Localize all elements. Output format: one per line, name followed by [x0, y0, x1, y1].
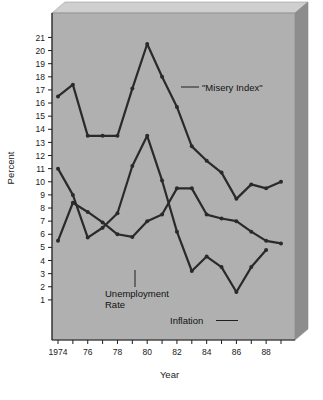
y-tick-label: 9 [40, 190, 45, 200]
y-axis-ticks: 123456789101112131415161718192021 [36, 33, 52, 305]
data-point [190, 269, 194, 273]
panel-right-bevel [295, 2, 308, 340]
data-point [220, 217, 224, 221]
y-tick-label: 2 [40, 282, 45, 292]
y-tick-label: 12 [36, 151, 46, 161]
x-tick-label: 86 [232, 347, 242, 357]
data-point [71, 193, 75, 197]
x-tick-label: 76 [83, 347, 93, 357]
data-point [130, 235, 134, 239]
data-point [220, 171, 224, 175]
y-tick-label: 17 [36, 85, 46, 95]
x-tick-label: 82 [172, 347, 182, 357]
data-point [56, 167, 60, 171]
data-point [279, 180, 283, 184]
plot-panel [52, 13, 295, 340]
y-tick-label: 1 [40, 295, 45, 305]
x-tick-label: 80 [142, 347, 152, 357]
y-tick-label: 5 [40, 242, 45, 252]
data-point [205, 213, 209, 217]
y-tick-label: 8 [40, 203, 45, 213]
y-tick-label: 7 [40, 216, 45, 226]
data-point [145, 219, 149, 223]
unemployment-rate-label-line2: Rate [105, 299, 125, 310]
data-point [101, 226, 105, 230]
data-point [145, 134, 149, 138]
data-point [101, 134, 105, 138]
data-point [279, 241, 283, 245]
misery-index-label: "Misery Index" [202, 82, 263, 93]
data-point [190, 144, 194, 148]
data-point [220, 265, 224, 269]
y-tick-label: 14 [36, 124, 46, 134]
y-tick-label: 3 [40, 269, 45, 279]
x-tick-label: 84 [202, 347, 212, 357]
data-point [160, 75, 164, 79]
data-point [86, 134, 90, 138]
x-tick-label: 1974 [49, 347, 68, 357]
inflation-label: Inflation [170, 315, 203, 326]
data-point [115, 134, 119, 138]
y-tick-label: 20 [36, 46, 46, 56]
data-point [130, 87, 134, 91]
y-tick-label: 19 [36, 59, 46, 69]
data-point [130, 164, 134, 168]
chart-figure: 1234567891011121314151617181920211974767… [0, 0, 323, 400]
data-point [264, 186, 268, 190]
y-tick-label: 15 [36, 111, 46, 121]
y-tick-label: 18 [36, 72, 46, 82]
panel-top-bevel [52, 2, 308, 13]
data-point [115, 211, 119, 215]
x-tick-label: 78 [113, 347, 123, 357]
unemployment-rate-label-line1: Unemployment [105, 288, 169, 299]
y-axis-title: Percent [5, 151, 16, 184]
data-point [175, 105, 179, 109]
y-tick-label: 16 [36, 98, 46, 108]
data-point [205, 159, 209, 163]
y-tick-label: 21 [36, 33, 46, 43]
data-point [175, 230, 179, 234]
data-point [115, 232, 119, 236]
data-point [145, 42, 149, 46]
data-point [205, 255, 209, 259]
y-tick-label: 10 [36, 177, 46, 187]
data-point [160, 213, 164, 217]
y-tick-label: 13 [36, 138, 46, 148]
data-point [86, 236, 90, 240]
y-tick-label: 4 [40, 256, 45, 266]
data-point [264, 239, 268, 243]
data-point [160, 178, 164, 182]
data-point [71, 83, 75, 87]
data-point [264, 248, 268, 252]
data-point [101, 220, 105, 224]
data-point [249, 230, 253, 234]
data-point [175, 186, 179, 190]
chart-svg: 1234567891011121314151617181920211974767… [0, 0, 323, 400]
data-point [234, 290, 238, 294]
y-tick-label: 11 [36, 164, 45, 174]
data-point [234, 219, 238, 223]
y-tick-label: 6 [40, 229, 45, 239]
x-axis-title: Year [160, 369, 179, 380]
data-point [86, 210, 90, 214]
x-tick-label: 88 [261, 347, 271, 357]
data-point [190, 186, 194, 190]
data-point [234, 197, 238, 201]
data-point [249, 265, 253, 269]
data-point [56, 94, 60, 98]
data-point [56, 239, 60, 243]
data-point [249, 182, 253, 186]
